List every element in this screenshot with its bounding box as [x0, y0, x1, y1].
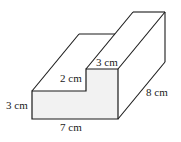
label-top-width: 3 cm — [96, 56, 118, 68]
label-front-height: 3 cm — [6, 99, 28, 111]
label-step-height: 2 cm — [60, 72, 82, 84]
label-depth: 8 cm — [146, 86, 168, 98]
label-front-width: 7 cm — [60, 121, 82, 133]
step-prism-diagram: 3 cm 7 cm 2 cm 3 cm 8 cm — [0, 0, 181, 142]
